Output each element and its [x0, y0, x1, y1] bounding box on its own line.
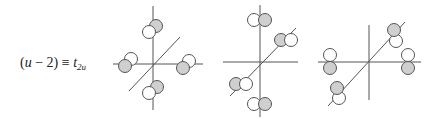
diagram-1 [113, 6, 203, 110]
d2-top-shaded-lobe [259, 14, 272, 27]
orbital-diagrams [0, 0, 439, 119]
d3-left-shaded-lobe [324, 62, 337, 75]
d3-diag-lower-shaded-lobe [331, 82, 344, 95]
d2-bottom-shaded-lobe [259, 98, 272, 111]
diagram-2 [223, 5, 298, 117]
d1-right-shaded-lobe [177, 62, 190, 75]
d3-left-unshaded-lobe [324, 49, 337, 62]
d1-bottom-unshaded-lobe [143, 87, 156, 100]
d3-right-shaded-lobe [402, 62, 415, 75]
d2-diag-upper-unshaded-lobe [285, 34, 298, 47]
diagram-3 [318, 22, 421, 106]
d2-diag-lower-unshaded-lobe [240, 78, 253, 91]
d3-diag-upper-shaded-lobe [388, 24, 401, 37]
d1-left-shaded-lobe [119, 60, 132, 73]
d3-right-unshaded-lobe [402, 49, 415, 62]
d1-top-unshaded-lobe [143, 26, 156, 39]
